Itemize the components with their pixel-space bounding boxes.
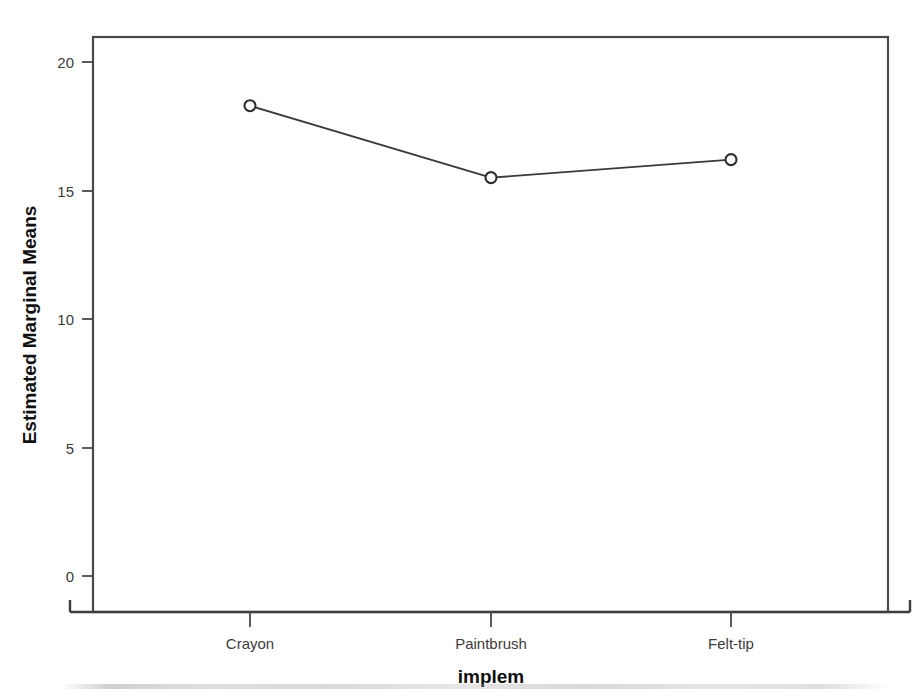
data-point-marker [486,172,497,183]
estimated-marginal-means-chart: 0 5 10 15 20 Crayon Paintbrush Felt-tip … [0,0,920,700]
series-line-estimated-marginal-means [250,106,731,178]
y-tick-label-20: 20 [57,54,74,71]
x-axis-title: implem [458,666,525,687]
y-tick-label-15: 15 [57,183,74,200]
y-tick-label-5: 5 [66,440,74,457]
y-axis-ticks [82,62,93,576]
data-point-markers [245,100,737,183]
data-point-marker [245,100,256,111]
y-axis-tick-labels: 0 5 10 15 20 [57,54,74,585]
x-tick-label-felt-tip: Felt-tip [708,635,754,652]
y-tick-label-0: 0 [66,568,74,585]
y-tick-label-10: 10 [57,311,74,328]
x-tick-label-paintbrush: Paintbrush [455,635,527,652]
plot-frame [93,37,888,612]
x-axis-tick-labels: Crayon Paintbrush Felt-tip [226,635,754,652]
data-point-marker [726,154,737,165]
y-axis-title: Estimated Marginal Means [19,206,40,445]
x-tick-label-crayon: Crayon [226,635,274,652]
line-plot-canvas: 0 5 10 15 20 Crayon Paintbrush Felt-tip … [0,0,920,700]
x-axis-ticks [250,612,731,627]
